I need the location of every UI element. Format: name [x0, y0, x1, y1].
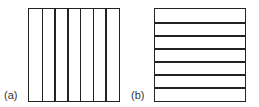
strip-divider: [155, 61, 245, 63]
strip-divider: [80, 9, 82, 101]
panel-a-vertical-strips: [28, 8, 120, 102]
strip-divider: [155, 87, 245, 89]
strip-divider: [155, 74, 245, 76]
panel-a-label: (a): [4, 89, 17, 101]
strip-divider: [105, 9, 107, 101]
strip-divider: [155, 35, 245, 37]
strip-divider: [155, 48, 245, 50]
strip-divider: [67, 9, 69, 101]
strip-divider: [93, 9, 95, 101]
strip-divider: [42, 9, 44, 101]
panel-b-label: (b): [131, 89, 144, 101]
strip-divider: [155, 22, 245, 24]
panel-b-horizontal-strips: [154, 8, 246, 102]
strip-divider: [54, 9, 56, 101]
